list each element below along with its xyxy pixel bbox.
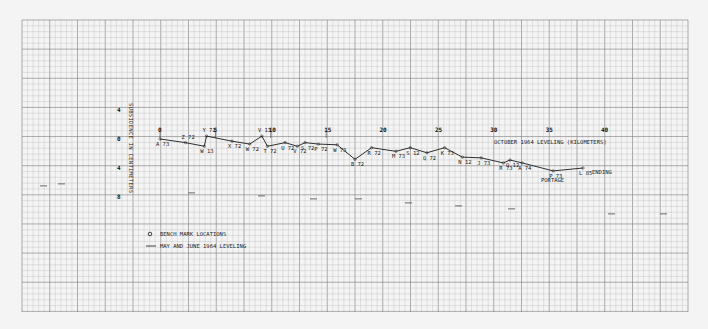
svg-text:30: 30 <box>490 126 498 133</box>
svg-text:35: 35 <box>546 126 554 133</box>
series-may-june-1964: A 73Z 72W 13Y 72X 72W 72V 13T 72U 72V 72… <box>156 127 592 179</box>
x-axis-title: OCTOBER 1964 LEVELING (KILOMETERS) <box>494 139 607 145</box>
svg-text:S 12: S 12 <box>406 150 419 156</box>
svg-text:20: 20 <box>380 126 388 133</box>
bench-mark-legend-icon <box>148 232 152 236</box>
svg-text:W 73: W 73 <box>333 147 346 153</box>
y-axis-title: SUBSIDENCE IN CENTIMETERS <box>128 103 134 193</box>
svg-text:T 72: T 72 <box>263 148 276 154</box>
svg-text:J 73: J 73 <box>477 160 490 166</box>
legend-leveling: MAY AND JUNE 1964 LEVELING <box>160 243 246 249</box>
svg-text:8: 8 <box>117 193 121 200</box>
svg-text:A 73: A 73 <box>156 141 169 147</box>
ending-annotation: ENDING <box>592 169 612 175</box>
svg-text:Z 72: Z 72 <box>181 134 194 140</box>
svg-text:A 74: A 74 <box>518 165 532 171</box>
svg-text:0: 0 <box>117 135 121 142</box>
svg-text:40: 40 <box>601 126 609 133</box>
svg-text:25: 25 <box>435 126 443 133</box>
svg-text:B 72: B 72 <box>351 161 364 167</box>
portage-annotation: PORTAGE <box>541 177 564 183</box>
svg-text:N 12: N 12 <box>458 159 471 165</box>
axis-ticks: 05101520253035404048 <box>117 106 609 200</box>
svg-text:W 72: W 72 <box>246 146 259 152</box>
svg-text:15: 15 <box>324 126 332 133</box>
svg-text:Q 72: Q 72 <box>423 155 436 161</box>
legend-bench-mark: BENCH MARK LOCATIONS <box>160 231 226 237</box>
svg-text:M 73: M 73 <box>392 153 405 159</box>
svg-text:L 85: L 85 <box>579 170 592 176</box>
svg-text:W 13: W 13 <box>200 148 213 154</box>
svg-text:4: 4 <box>117 106 121 113</box>
svg-text:Y 72: Y 72 <box>203 127 216 133</box>
svg-text:P 72: P 72 <box>314 146 327 152</box>
svg-text:K 73: K 73 <box>441 150 454 156</box>
svg-text:R 72: R 72 <box>368 150 381 156</box>
svg-text:4: 4 <box>117 164 121 171</box>
svg-text:X 72: X 72 <box>228 143 241 149</box>
subsidence-chart: 05101520253035404048 SUBSIDENCE IN CENTI… <box>0 0 708 329</box>
svg-text:S 72: S 72 <box>301 145 314 151</box>
svg-text:V 13: V 13 <box>258 127 271 133</box>
